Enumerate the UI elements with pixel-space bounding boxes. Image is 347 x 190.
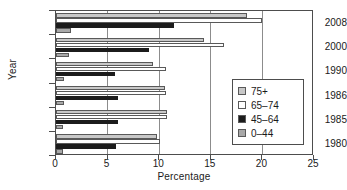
bar <box>56 139 160 143</box>
legend-item: 45–64 <box>238 112 298 126</box>
bar <box>56 125 63 129</box>
x-axis-tick-mark <box>313 155 314 160</box>
legend-item-label: 75+ <box>251 86 268 97</box>
grid-line <box>107 11 108 154</box>
bar <box>56 134 157 138</box>
x-axis-tick-mark <box>158 155 159 160</box>
bar <box>56 43 224 47</box>
bar <box>56 86 165 90</box>
bar <box>56 72 115 76</box>
x-axis-tick-mark <box>107 155 108 160</box>
bar <box>56 13 247 17</box>
legend-item-label: 65–74 <box>251 100 279 111</box>
x-axis-title: Percentage <box>55 171 313 182</box>
bar <box>56 101 64 105</box>
bar-chart: Year Percentage 200820001990198619851980… <box>0 0 347 190</box>
bar <box>56 28 71 32</box>
bar <box>56 62 153 66</box>
legend-item-label: 45–64 <box>251 114 279 125</box>
legend-item-label: 0–44 <box>251 128 273 139</box>
bar <box>56 149 63 153</box>
bar <box>56 18 262 22</box>
grid-line <box>210 11 211 154</box>
bar <box>56 53 69 57</box>
bar <box>56 144 116 148</box>
legend-item: 0–44 <box>238 126 298 140</box>
bar <box>56 48 149 52</box>
x-axis-tick-mark <box>55 155 56 160</box>
legend-swatch-icon <box>238 115 246 123</box>
bar <box>56 38 204 42</box>
legend-swatch-icon <box>238 101 246 109</box>
bar <box>56 23 174 27</box>
bar <box>56 96 118 100</box>
x-axis-tick-mark <box>261 155 262 160</box>
grid-line <box>159 11 160 154</box>
bar <box>56 120 118 124</box>
bar <box>56 77 64 81</box>
legend-swatch-icon <box>238 129 246 137</box>
legend-swatch-icon <box>238 87 246 95</box>
legend-item: 75+ <box>238 84 298 98</box>
bar <box>56 67 166 71</box>
bar <box>56 110 167 114</box>
legend: 75+65–7445–640–44 <box>232 79 304 145</box>
bar <box>56 115 167 119</box>
legend-item: 65–74 <box>238 98 298 112</box>
y-axis-title: Year <box>7 45 18 95</box>
bar <box>56 91 166 95</box>
x-axis-tick-mark <box>210 155 211 160</box>
